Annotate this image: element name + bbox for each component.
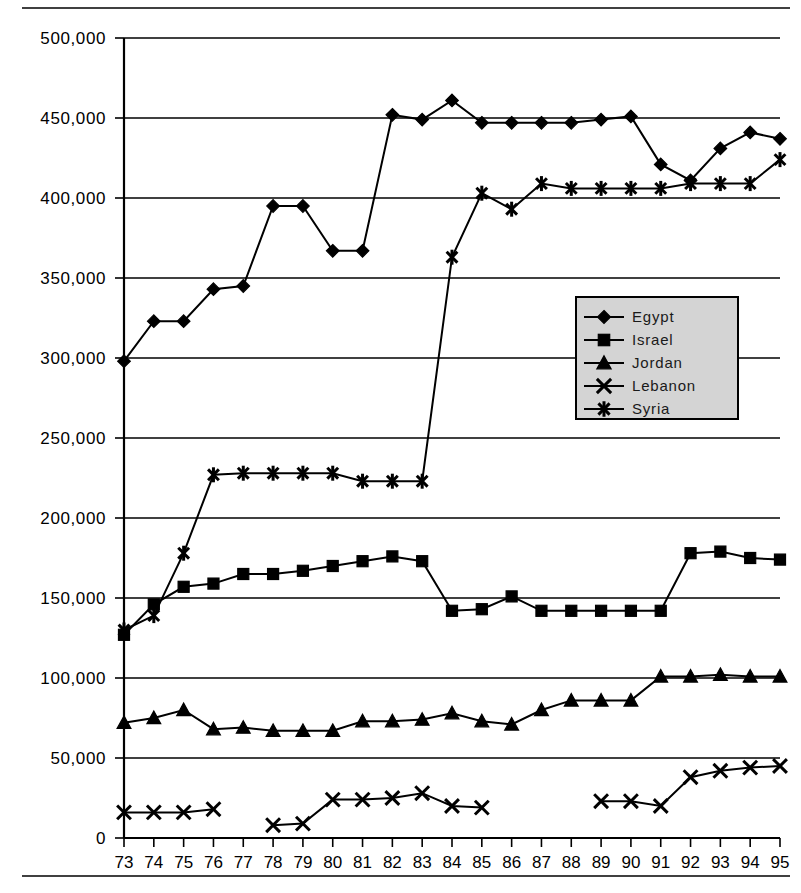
x-tick-label: 80 [323,853,342,872]
x-tick-label: 90 [621,853,640,872]
y-tick-label: 0 [96,829,106,848]
data-point-israel [476,604,487,615]
x-tick-label: 78 [264,853,283,872]
data-point-jordan [445,706,459,719]
y-tick-label: 500,000 [40,29,106,48]
x-tick-label: 93 [711,853,730,872]
y-tick-label: 50,000 [50,749,106,768]
data-point-egypt [356,245,369,258]
x-tick-label: 77 [234,853,253,872]
x-axis-tick-marks [124,838,780,847]
data-point-israel [566,605,577,616]
data-point-egypt [625,110,638,123]
data-point-israel [178,581,189,592]
data-series-group [117,94,787,832]
legend-label: Israel [632,331,673,348]
data-point-israel [446,605,457,616]
data-point-israel [387,551,398,562]
x-tick-label: 88 [562,853,581,872]
x-tick-label: 95 [771,853,790,872]
x-tick-label: 81 [353,853,372,872]
data-point-israel [357,556,368,567]
x-tick-label: 92 [681,853,700,872]
x-tick-label: 91 [651,853,670,872]
series-line-israel [124,552,780,635]
y-tick-label: 250,000 [40,429,106,448]
data-point-egypt [326,245,339,258]
x-axis-tick-labels: 7374757677787980818283848586878889909192… [115,853,790,872]
series-line-lebanon [124,809,213,812]
series-lebanon [117,759,787,832]
data-point-egypt [595,113,608,126]
y-tick-label: 400,000 [40,189,106,208]
legend-label: Syria [632,400,670,417]
data-point-israel [327,560,338,571]
x-tick-label: 82 [383,853,402,872]
data-point-israel [297,565,308,576]
data-point-egypt [386,109,399,122]
data-point-egypt [267,200,280,213]
data-point-israel [417,556,428,567]
chart-figure: 050,000100,000150,000200,000250,000300,0… [0,0,801,893]
x-tick-label: 76 [204,853,223,872]
data-point-israel [506,591,517,602]
y-tick-label: 200,000 [40,509,106,528]
data-point-egypt [297,200,310,213]
x-tick-label: 84 [443,853,462,872]
data-point-israel [774,554,785,565]
series-israel [118,546,785,640]
x-tick-label: 79 [293,853,312,872]
data-point-israel [596,605,607,616]
data-point-israel [745,552,756,563]
data-point-egypt [744,126,757,139]
legend-label: Egypt [632,308,674,325]
data-point-egypt [416,113,429,126]
data-point-israel [208,578,219,589]
data-point-egypt [654,158,667,171]
y-tick-label: 100,000 [40,669,106,688]
line-chart: 050,000100,000150,000200,000250,000300,0… [0,0,801,893]
data-point-israel [685,548,696,559]
data-point-israel [625,605,636,616]
page-rules [22,8,790,876]
y-axis-tick-labels: 050,000100,000150,000200,000250,000300,0… [40,29,106,848]
y-tick-label: 450,000 [40,109,106,128]
data-point-egypt [774,133,787,146]
data-point-jordan [177,703,191,716]
x-tick-label: 89 [592,853,611,872]
y-tick-label: 150,000 [40,589,106,608]
data-point-israel [536,605,547,616]
legend-marker-square-icon [598,334,609,345]
legend-label: Jordan [632,354,683,371]
x-tick-label: 85 [472,853,491,872]
x-tick-label: 74 [144,853,163,872]
x-tick-label: 75 [174,853,193,872]
data-point-israel [655,605,666,616]
x-tick-label: 73 [115,853,134,872]
data-point-israel [238,568,249,579]
series-line-jordan [124,675,780,731]
legend-label: Lebanon [632,377,696,394]
chart-legend[interactable]: EgyptIsraelJordanLebanonSyria [576,297,738,419]
data-point-israel [268,568,279,579]
data-point-egypt [237,280,250,293]
x-tick-label: 86 [502,853,521,872]
y-tick-label: 350,000 [40,269,106,288]
x-tick-label: 87 [532,853,551,872]
data-point-israel [715,546,726,557]
x-tick-label: 83 [413,853,432,872]
x-tick-label: 94 [741,853,760,872]
y-tick-label: 300,000 [40,349,106,368]
